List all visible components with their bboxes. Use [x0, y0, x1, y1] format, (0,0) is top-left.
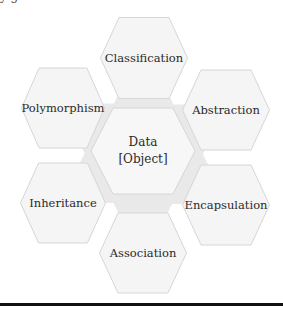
hex-encapsulation	[183, 165, 270, 245]
hex-association	[100, 213, 187, 293]
hex-polymorphism	[22, 68, 105, 148]
hex-classification	[101, 18, 188, 99]
hex-abstraction	[183, 70, 270, 150]
bottom-rule	[0, 303, 283, 306]
hex-inheritance	[21, 163, 106, 243]
hex-data-object	[91, 108, 195, 194]
hexagon-diagram	[0, 0, 283, 315]
hexagon-group	[21, 18, 270, 294]
